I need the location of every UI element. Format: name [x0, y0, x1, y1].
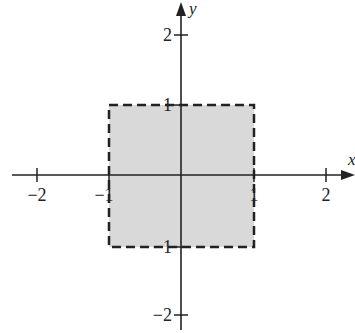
y-axis-arrow-icon [176, 2, 186, 16]
x-tick-label--2: −2 [27, 185, 46, 205]
y-tick-label--1: −1 [153, 237, 172, 257]
y-tick-label--2: −2 [153, 305, 172, 325]
x-tick-label-2: 2 [322, 185, 331, 205]
y-axis-label: y [187, 0, 197, 18]
x-axis-label: x [347, 150, 355, 169]
x-tick-label--1: −1 [94, 185, 113, 205]
y-tick-label-2: 2 [163, 25, 172, 45]
y-tick-label-1: 1 [163, 95, 172, 115]
x-tick-label-1: 1 [250, 185, 259, 205]
x-axis-arrow-icon [341, 170, 355, 180]
coordinate-plane: x y −2 −1 1 2 2 1 −1 −2 [0, 0, 355, 333]
